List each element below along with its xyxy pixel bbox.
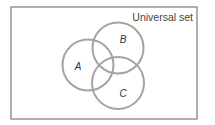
set-b-label: B: [120, 34, 127, 45]
venn-diagram: Universal set A B C: [0, 0, 215, 125]
set-a-label: A: [74, 61, 82, 72]
universal-set-boundary: [11, 7, 197, 119]
set-c-label: C: [119, 88, 127, 99]
universal-set-label: Universal set: [132, 11, 193, 23]
